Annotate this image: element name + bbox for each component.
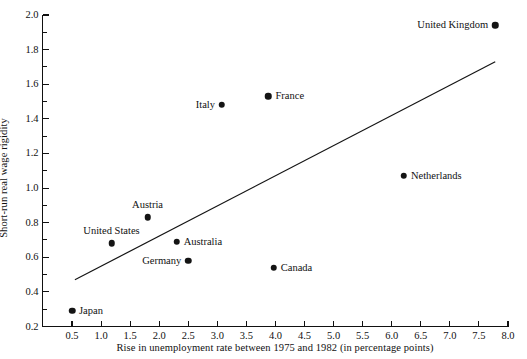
data-point-label: Canada — [281, 262, 313, 273]
data-point-label: Australia — [184, 236, 223, 247]
data-point-marker — [173, 238, 180, 245]
x-tick-label: 3.0 — [211, 331, 224, 342]
data-point-label: United States — [83, 226, 139, 237]
y-axis-title: Short-run real wage rigidity — [0, 118, 9, 238]
y-tick-label: 1.0 — [25, 183, 38, 194]
data-point-marker — [69, 308, 76, 315]
x-tick-label: 4.0 — [269, 331, 282, 342]
x-tick-label: 7.0 — [443, 331, 456, 342]
data-point-label: United Kingdom — [417, 20, 488, 31]
data-point-label: Japan — [79, 306, 103, 317]
data-point-label: Austria — [132, 200, 163, 211]
x-tick-label: 0.5 — [65, 331, 78, 342]
scatter-plot-figure: 0.20.40.60.81.01.21.41.61.82.0 0.51.01.5… — [0, 0, 527, 359]
data-point-marker — [270, 264, 277, 271]
data-point-marker — [265, 93, 272, 100]
x-tick-label: 6.0 — [385, 331, 398, 342]
x-tick-label: 1.0 — [95, 331, 108, 342]
data-point-marker — [108, 240, 115, 247]
x-tick-label: 5.0 — [327, 331, 340, 342]
y-tick-label: 0.8 — [25, 217, 38, 228]
data-point-marker — [219, 102, 226, 109]
y-tick-label: 1.4 — [25, 114, 38, 125]
x-tick-label: 6.5 — [414, 331, 427, 342]
data-point-marker — [401, 173, 408, 180]
x-tick-label: 2.0 — [153, 331, 166, 342]
data-point-marker — [492, 22, 499, 29]
y-tick-label: 1.8 — [25, 44, 38, 55]
y-tick-label: 1.2 — [25, 148, 38, 159]
x-tick-label: 3.5 — [240, 331, 253, 342]
x-tick-label: 8.0 — [501, 331, 514, 342]
data-point-marker — [185, 257, 192, 264]
y-tick-label: 0.4 — [25, 287, 38, 298]
data-point-label: France — [275, 91, 304, 102]
x-tick-label: 4.5 — [298, 331, 311, 342]
data-point-label: Netherlands — [411, 171, 462, 182]
data-point-marker — [144, 214, 151, 221]
x-tick-label: 7.5 — [472, 331, 485, 342]
data-point-label: Germany — [142, 255, 181, 266]
x-tick-label: 1.5 — [124, 331, 137, 342]
y-tick-label: 0.2 — [25, 321, 38, 332]
x-axis-title: Rise in unemployment rate between 1975 a… — [116, 342, 433, 353]
x-tick-label: 2.5 — [182, 331, 195, 342]
y-tick-label: 1.6 — [25, 79, 38, 90]
y-tick-label: 2.0 — [25, 10, 38, 21]
y-tick-label: 0.6 — [25, 252, 38, 263]
data-point-label: Italy — [196, 100, 215, 111]
x-tick-label: 5.5 — [356, 331, 369, 342]
